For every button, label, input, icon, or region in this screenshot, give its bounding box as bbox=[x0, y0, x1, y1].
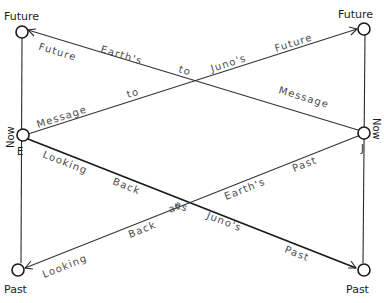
label-earth-future: Future bbox=[4, 10, 39, 23]
sigD-label-looking: Looking bbox=[41, 252, 89, 280]
sigC-label-junos: Juno's bbox=[204, 209, 243, 233]
label-juno-past: Past bbox=[346, 283, 370, 296]
node-earth-past bbox=[12, 264, 24, 276]
sigC-label-past: Past bbox=[283, 244, 311, 264]
node-earth-now bbox=[17, 129, 29, 141]
label-earth-now: Now bbox=[5, 126, 16, 148]
label-juno-initial: J bbox=[360, 143, 364, 154]
sigB-label-to: to bbox=[125, 86, 140, 100]
sigA-label-message: Message bbox=[277, 84, 330, 110]
label-earth-initial: E bbox=[17, 146, 23, 157]
node-juno-future bbox=[358, 23, 370, 35]
sigA-label-earths: Earth's bbox=[99, 43, 144, 66]
sigA-label-future: Future bbox=[38, 41, 79, 63]
sigD-label-past: Past bbox=[291, 154, 319, 174]
sigB-label-future: Future bbox=[273, 32, 314, 54]
label-juno-now: Now bbox=[371, 118, 382, 140]
spacetime-diagram: Future Future Past Past Now E Now J Futu… bbox=[0, 0, 384, 303]
sigB-label-junos: Juno's bbox=[208, 52, 247, 74]
sigD-label-earths: Earth's bbox=[223, 176, 267, 202]
node-juno-past bbox=[358, 264, 370, 276]
node-earth-future bbox=[16, 26, 28, 38]
node-juno-now bbox=[358, 127, 370, 139]
label-juno-future: Future bbox=[338, 8, 373, 21]
label-earth-past: Past bbox=[4, 283, 28, 296]
